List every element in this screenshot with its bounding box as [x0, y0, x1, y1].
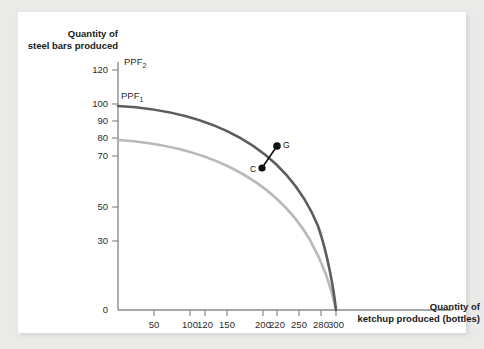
y-tick-marks — [112, 70, 118, 241]
ppf2-curve-label: PPF2 — [124, 56, 146, 69]
y-axis-title: Quantity ofsteel bars produced — [10, 28, 118, 52]
ppf1-label-text: PPF — [121, 90, 139, 101]
y-axis-title-line1: Quantity of — [68, 28, 118, 39]
x-tick-marks — [154, 310, 336, 316]
ytick-label-120: 120 — [82, 64, 108, 75]
xtick-label-50: 50 — [141, 319, 167, 330]
ytick-label-90: 90 — [82, 115, 108, 126]
point-g-marker[interactable] — [273, 142, 281, 150]
xtick-label-150: 150 — [214, 319, 240, 330]
y-axis-title-line2: steel bars produced — [28, 40, 118, 51]
x-axis-title-line1: Quantity of — [430, 301, 480, 312]
screenshot-root: Quantity ofsteel bars produced Quantity … — [0, 0, 484, 349]
x-axis-title: Quantity ofketchup produced (bottles) — [356, 301, 480, 325]
ytick-label-100: 100 — [82, 98, 108, 109]
point-c-marker[interactable] — [258, 164, 265, 171]
ppf2-label-text: PPF — [124, 56, 142, 67]
ppf1-curve — [118, 140, 336, 310]
ppf-chart-svg — [0, 0, 484, 349]
point-g-label: G — [283, 140, 290, 150]
ppf1-label-subscript: 1 — [139, 96, 143, 103]
point-c-label: C — [250, 164, 256, 174]
ytick-label-0: 0 — [82, 304, 108, 315]
ppf1-curve-label: PPF1 — [121, 90, 143, 103]
xtick-label-300: 300 — [323, 319, 349, 330]
ppf2-label-subscript: 2 — [142, 62, 146, 69]
ytick-label-70: 70 — [82, 150, 108, 161]
ytick-label-30: 30 — [82, 235, 108, 246]
ytick-label-80: 80 — [82, 132, 108, 143]
ppf2-curve — [118, 106, 336, 310]
x-axis-title-line2: ketchup produced (bottles) — [358, 313, 480, 324]
ytick-label-50: 50 — [82, 201, 108, 212]
